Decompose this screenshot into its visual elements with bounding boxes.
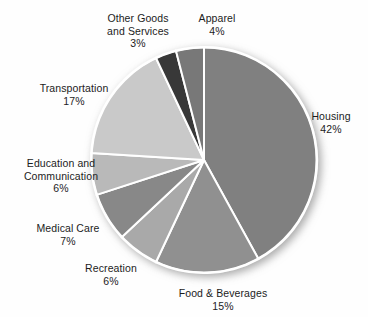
slice-label-other-goods-and-services: Other Goods and Services 3%: [92, 12, 184, 50]
slice-label-value: 15%: [164, 300, 282, 313]
pie-chart-figure: Other Goods and Services 3% Apparel 4% T…: [0, 0, 368, 317]
slice-label-name: Transportation: [22, 82, 126, 95]
slice-label-medical-care: Medical Care 7%: [20, 222, 116, 247]
slice-label-value: 42%: [300, 123, 362, 136]
slice-label-value: 6%: [4, 182, 118, 195]
slice-label-value: 17%: [22, 95, 126, 108]
slice-label-education-and-communication: Education and Communication 6%: [4, 157, 118, 195]
slice-label-food-and-beverages: Food & Beverages 15%: [164, 287, 282, 312]
slice-label-transportation: Transportation 17%: [22, 82, 126, 107]
slice-label-value: 6%: [66, 275, 156, 288]
slice-label-apparel: Apparel 4%: [188, 12, 246, 37]
slice-label-name: Other Goods: [92, 12, 184, 25]
slice-label-name: Apparel: [188, 12, 246, 25]
slice-label-name: Housing: [300, 110, 362, 123]
slice-label-name-line2: Communication: [4, 170, 118, 183]
slice-label-name: Medical Care: [20, 222, 116, 235]
slice-label-name-line2: and Services: [92, 25, 184, 38]
slice-label-housing: Housing 42%: [300, 110, 362, 135]
slice-label-name: Education and: [4, 157, 118, 170]
slice-label-name: Recreation: [66, 262, 156, 275]
slice-label-value: 4%: [188, 25, 246, 38]
slice-label-value: 3%: [92, 37, 184, 50]
slice-label-name: Food & Beverages: [164, 287, 282, 300]
slice-label-value: 7%: [20, 235, 116, 248]
slice-label-recreation: Recreation 6%: [66, 262, 156, 287]
